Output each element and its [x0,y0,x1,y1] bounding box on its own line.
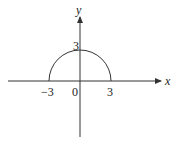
y-axis-label: y [75,3,82,17]
semicircle-diagram: y x 3 −3 0 3 [0,0,178,148]
y-top-label: 3 [73,39,79,53]
x-pos-label: 3 [107,85,113,99]
x-neg-label: −3 [41,85,54,99]
origin-label: 0 [72,85,78,99]
x-axis-label: x [164,74,171,88]
